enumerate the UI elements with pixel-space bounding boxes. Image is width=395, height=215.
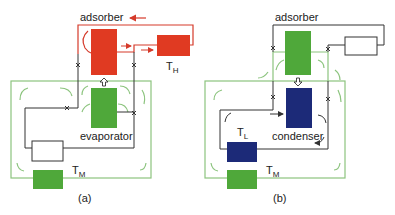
evaporator-label: evaporator xyxy=(80,130,133,142)
adsorber-label-a: adsorber xyxy=(80,11,124,23)
caption-b: (b) xyxy=(273,192,286,204)
adsorber-label-b: adsorber xyxy=(275,11,319,23)
th-label: TH xyxy=(166,60,179,75)
adsorber-hot-box-a xyxy=(91,29,117,75)
tl-reservoir-box xyxy=(227,142,257,162)
condenser-label: condenser xyxy=(272,130,324,142)
tl-label: TL xyxy=(237,126,249,141)
transfer-arrow-up-icon xyxy=(100,78,108,86)
condenser-box xyxy=(286,88,312,128)
tm-label-b: TM xyxy=(266,164,280,179)
sink-tm-box-a xyxy=(33,170,63,189)
evaporator-box xyxy=(91,88,117,128)
transfer-arrow-down-icon xyxy=(294,78,302,86)
tm-label-a: TM xyxy=(72,164,86,179)
adsorber-green-box-b xyxy=(285,31,311,75)
heat-source-th-box xyxy=(157,35,190,56)
sink-tm-box-b xyxy=(227,170,257,189)
adsorption-cycle-diagram: adsorber evaporator TH TM (a) xyxy=(0,0,395,215)
panel-a: adsorber evaporator TH TM (a) xyxy=(11,11,193,204)
reservoir-box-a xyxy=(32,141,63,161)
empty-box-b xyxy=(345,37,377,55)
panel-b: adsorber condenser TL TM (b) xyxy=(205,11,384,204)
caption-a: (a) xyxy=(78,192,91,204)
